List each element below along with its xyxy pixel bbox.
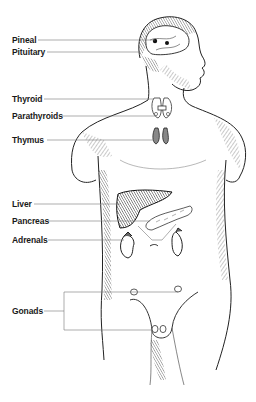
pancreas-organ	[146, 206, 192, 230]
label-parathyroids: Parathyroids	[12, 111, 63, 121]
label-adrenals: Adrenals	[12, 235, 48, 245]
label-liver: Liver	[12, 199, 32, 209]
gonads-organs	[131, 286, 182, 333]
label-pancreas: Pancreas	[12, 216, 49, 226]
label-pineal: Pineal	[12, 35, 36, 45]
label-pituitary: Pituitary	[12, 47, 45, 57]
pineal-gland	[153, 39, 157, 43]
thymus-gland	[153, 128, 169, 144]
label-gonads: Gonads	[12, 306, 43, 316]
male-figure-illustration	[0, 0, 256, 402]
kidneys-adrenals	[121, 228, 183, 258]
pituitary-gland	[165, 41, 169, 45]
label-thymus: Thymus	[12, 135, 44, 145]
label-thyroid: Thyroid	[12, 94, 42, 104]
parathyroid-glands	[154, 112, 169, 115]
